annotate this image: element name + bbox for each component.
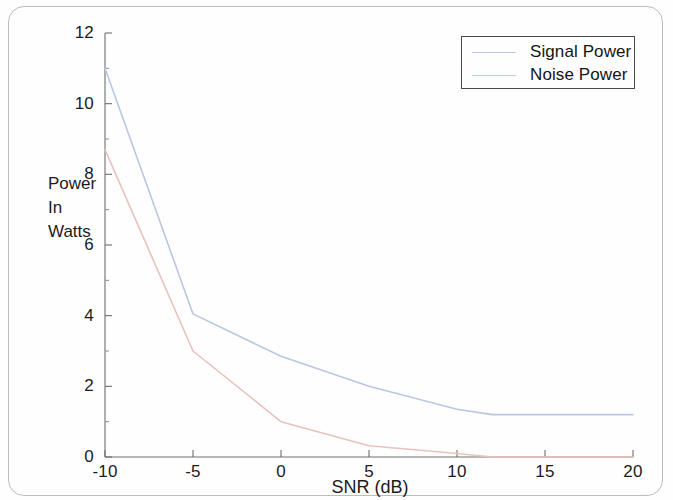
legend-label-noise-power: Noise Power: [530, 65, 627, 85]
legend-label-signal-power: Signal Power: [530, 42, 631, 62]
plot-figure: 024681012 -10-505101520 Power In Watts S…: [0, 0, 673, 500]
y-tick-label: 10: [60, 94, 94, 114]
series-line-signal-power: [105, 68, 633, 414]
x-tick-label: 10: [447, 462, 466, 482]
y-axis-title: Power In Watts: [48, 172, 96, 244]
y-tick-label: 0: [60, 447, 94, 467]
x-tick-label: 20: [623, 462, 642, 482]
y-tick-label: 4: [60, 306, 94, 326]
y-axis-ticks: [105, 33, 112, 457]
x-tick-label: 15: [535, 462, 554, 482]
x-axis-title: SNR (dB): [331, 477, 408, 498]
x-tick-label: -10: [92, 462, 117, 482]
legend-entry-signal-power: Signal Power: [472, 41, 631, 63]
data-series-lines: [105, 68, 633, 457]
chart-screenshot: 024681012 -10-505101520 Power In Watts S…: [0, 0, 673, 500]
series-line-noise-power: [105, 150, 633, 457]
x-tick-label: 0: [276, 462, 286, 482]
legend-entry-noise-power: Noise Power: [472, 64, 627, 86]
y-axis-title-line-2: In: [48, 196, 96, 220]
legend-color-swatch-noise-power: [472, 75, 516, 76]
x-axis-ticks: [105, 450, 633, 457]
x-tick-label: -5: [185, 462, 201, 482]
legend-color-swatch-signal-power: [472, 52, 516, 53]
y-axis-title-line-3: Watts: [48, 220, 96, 244]
y-tick-label: 2: [60, 376, 94, 396]
legend: Signal Power Noise Power: [461, 36, 635, 89]
y-axis-title-line-1: Power: [48, 172, 96, 196]
y-tick-label: 12: [60, 23, 94, 43]
